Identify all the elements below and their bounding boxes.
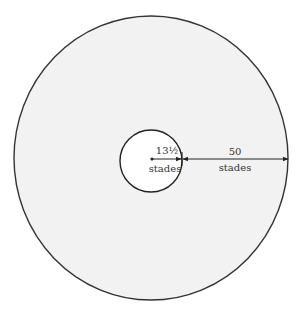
concentric-circles-diagram: 13½ stades 50 stades bbox=[0, 0, 301, 315]
inner-label-unit: stades bbox=[149, 163, 182, 174]
outer-label-value: 50 bbox=[229, 146, 242, 157]
outer-label-unit: stades bbox=[219, 162, 252, 173]
inner-label-value: 13½ bbox=[156, 145, 179, 156]
inner-circle bbox=[120, 130, 182, 192]
